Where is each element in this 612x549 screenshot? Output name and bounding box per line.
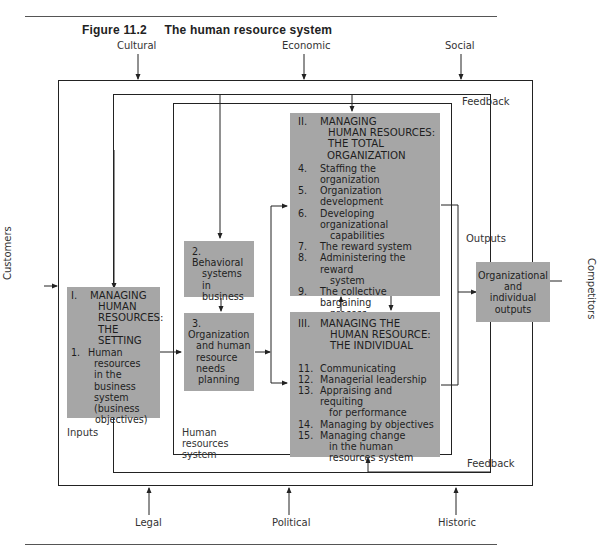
feedback-label-bottom: Feedback [467,458,515,470]
env-legal: Legal [135,517,162,529]
env-customers: Customers [2,226,13,280]
env-cultural: Cultural [117,40,156,52]
box-organization-planning: 3. Organization and human resource needs… [184,313,254,391]
env-historic: Historic [438,517,476,529]
box-managing-individual: III. MANAGING THE HUMAN RESOURCE: THE IN… [290,312,440,457]
env-economic: Economic [282,40,330,52]
inputs-label: Inputs [67,427,98,439]
individual-items: 11.Communicating 12.Managerial leadershi… [298,363,438,464]
box-managing-total-organization: II. MANAGING HUMAN RESOURCES: THE TOTAL … [290,113,440,296]
env-social: Social [445,40,475,52]
box-organizational-outputs: Organizational and individual outputs [476,262,550,322]
env-political: Political [272,517,310,529]
feedback-label-top: Feedback [462,96,510,108]
box-behavioral-systems: 2. Behavioral systems in business [184,241,254,297]
env-competitors: Competitors [586,258,597,319]
hr-system-label: Human resources system [182,427,229,460]
box-managing-setting: I. MANAGING HUMAN RESOURCES: THE SETTING… [67,287,160,418]
outputs-label: Outputs [466,233,506,245]
